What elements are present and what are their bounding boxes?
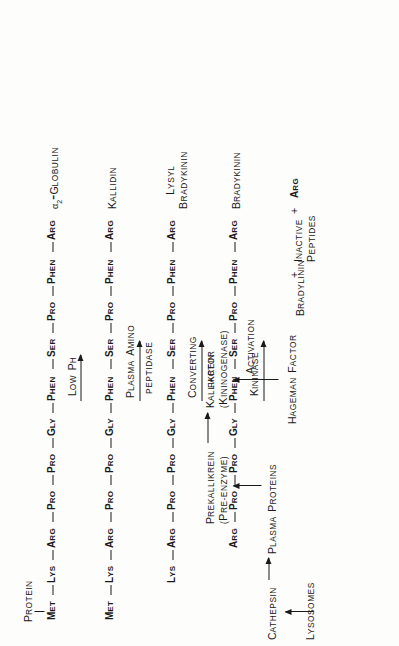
product-arg: ARG <box>289 178 300 198</box>
residue: PRO <box>104 454 115 473</box>
bond <box>234 475 235 485</box>
arrow-plasma-amino-peptidase <box>139 341 140 401</box>
bond <box>234 359 235 369</box>
bond <box>172 242 173 252</box>
plasma-amino-label: PLASMA AMINO <box>119 325 136 398</box>
node-prekallikrein-sublabel: (PRE-ENZYME) <box>217 451 228 524</box>
product-inactive-peptides: INACTIVE PEPTIDES <box>288 215 316 262</box>
node-cathepsin: CATHEPSIN <box>262 587 279 640</box>
residue: GLY <box>166 418 177 436</box>
residue: PHEN <box>228 259 239 284</box>
residue: ARG <box>228 220 239 240</box>
bond <box>172 286 173 296</box>
arrow-label-plasma-amino-peptidase: PLASMA AMINO <box>120 325 137 398</box>
chain-name-line1: LYSYL <box>159 166 176 195</box>
product-bradylinin-label: BRADYLININ <box>289 260 306 316</box>
node-prekallikrein-label: PREKALLIKREIN <box>199 451 216 524</box>
arrow-kininase <box>263 341 264 401</box>
bond <box>110 550 111 560</box>
residue: MET <box>104 601 115 620</box>
residue: GLY <box>104 418 115 436</box>
arrow-cathepsin-to-plasma-proteins <box>268 558 269 580</box>
bond <box>110 323 111 333</box>
residue: PHEN <box>46 376 57 401</box>
figure-root: LYSOSOMES CATHEPSIN PLASMA PROTEINS PREK… <box>0 0 399 646</box>
arrow-converting-factor <box>201 341 202 401</box>
bond <box>172 438 173 448</box>
converting-label: CONVERTING <box>181 336 198 398</box>
arrow-lysosomes-to-cathepsin <box>285 611 313 612</box>
residue: ARG <box>46 528 57 548</box>
node-plasma-proteins: PLASMA PROTEINS <box>262 464 279 554</box>
bond <box>110 512 111 522</box>
arrow-label-factor: FACTOR <box>206 351 215 388</box>
bond <box>110 438 111 448</box>
bond <box>172 550 173 560</box>
residue: PRO <box>46 491 57 510</box>
residue: ARG <box>104 220 115 240</box>
residue: PHEN <box>166 376 177 401</box>
bond <box>234 403 235 413</box>
bond <box>172 512 173 522</box>
figure-canvas: LYSOSOMES CATHEPSIN PLASMA PROTEINS PREK… <box>0 0 399 646</box>
bond <box>234 323 235 333</box>
residue: ARG <box>228 528 239 548</box>
residue: SER <box>228 338 239 357</box>
peptidase-label: PEPTIDASE <box>143 342 153 394</box>
bond <box>52 286 53 296</box>
residue: MET <box>46 601 57 620</box>
residue: SER <box>166 338 177 357</box>
product-peptides-label: PEPTIDES <box>305 215 316 262</box>
node-hageman-factor-label: HAGEMAN FACTOR <box>281 335 298 424</box>
product-bradylinin: BRADYLININ <box>290 260 307 316</box>
bond <box>110 585 111 595</box>
bond <box>52 323 53 333</box>
residue: PRO <box>228 454 239 473</box>
chain-name-bradykinin: BRADYKININ <box>226 152 243 209</box>
bond <box>52 242 53 252</box>
chain-head-protein: PROTEIN <box>18 580 35 622</box>
node-hageman-factor: HAGEMAN FACTOR <box>282 335 299 424</box>
bond <box>172 403 173 413</box>
bond <box>52 585 53 595</box>
residue: SER <box>104 338 115 357</box>
plus-label: + <box>287 208 299 214</box>
residue: ARG <box>46 220 57 240</box>
bond <box>110 242 111 252</box>
chain-name-line2: BRADYKININ <box>177 151 188 209</box>
node-kallikrein-sublabel: (KININOGENASE) <box>217 330 228 408</box>
residue: PRO <box>104 302 115 321</box>
residue: PRO <box>104 491 115 510</box>
factor-label: FACTOR <box>205 351 215 388</box>
residue: PRO <box>228 491 239 510</box>
node-plasma-proteins-label: PLASMA PROTEINS <box>261 464 278 554</box>
residue: PRO <box>166 491 177 510</box>
chain-name-lysyl-bradykinin: LYSYL BRADYKININ <box>160 151 188 209</box>
arrow-label-peptidase: PEPTIDASE <box>144 342 153 394</box>
node-prekallikrein: PREKALLIKREIN (PRE-ENZYME) <box>200 451 228 524</box>
arrow-plasma-proteins-to-prekallikrein <box>233 485 261 486</box>
residue: PHEN <box>46 259 57 284</box>
bond <box>110 286 111 296</box>
bond <box>234 286 235 296</box>
residue: LYS <box>166 565 177 583</box>
arrow-low-ph <box>80 355 81 401</box>
node-cathepsin-label: CATHEPSIN <box>261 587 278 640</box>
arrow-prekallikrein-to-kallikrein <box>207 413 208 443</box>
bond <box>110 359 111 369</box>
bond <box>52 359 53 369</box>
residue: ARG <box>104 528 115 548</box>
bond <box>172 359 173 369</box>
chain-head-protein-label: PROTEIN <box>17 580 34 622</box>
bond <box>172 323 173 333</box>
product-plus-2: + <box>288 208 300 214</box>
residue: PHEN <box>166 259 177 284</box>
low-ph-label: LOW PH <box>61 357 78 396</box>
residue: PRO <box>166 302 177 321</box>
residue: PHEN <box>104 259 115 284</box>
arrow-label-converting: CONVERTING <box>182 336 199 398</box>
residue: ARG <box>166 220 177 240</box>
residue: GLY <box>228 418 239 436</box>
bond <box>234 242 235 252</box>
residue: SER <box>46 338 57 357</box>
